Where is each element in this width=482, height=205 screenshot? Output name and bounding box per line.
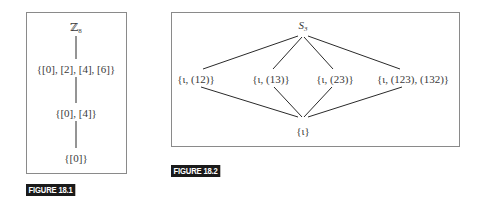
node-h12: {ι, (12)} <box>177 74 214 85</box>
node-subgroup-order-2: {[0], [4]} <box>55 108 97 119</box>
node-z8-base: ℤ <box>70 21 78 33</box>
node-h13: {ι, (13)} <box>252 74 289 85</box>
edge-a3-triv <box>308 87 402 117</box>
edge-h12-triv <box>201 87 298 117</box>
edge-s3-a3 <box>308 36 400 69</box>
edge-h23-triv <box>304 87 332 117</box>
node-h23: {ι, (23)} <box>316 74 353 85</box>
edge-s3-h12 <box>203 36 298 69</box>
figure-18-2-caption: FIGURE 18.2 <box>171 165 220 177</box>
node-a3: {ι, (123), (132)} <box>377 74 449 85</box>
node-z8-sub: 8 <box>78 27 82 35</box>
figure-18-1-caption: FIGURE 18.1 <box>26 184 75 196</box>
edge-s3-h13 <box>273 37 302 69</box>
node-trivial-subgroup: {[0]} <box>64 153 87 164</box>
node-s3-sub: 3 <box>304 25 308 33</box>
node-subgroup-order-4: {[0], [2], [4], [6]} <box>37 64 115 75</box>
edge-h13-triv <box>274 87 302 117</box>
node-z8: ℤ8 <box>70 22 82 35</box>
edge-s3-h23 <box>304 37 333 69</box>
node-s3: S3 <box>299 20 308 33</box>
node-trivial: {ι} <box>296 126 310 137</box>
